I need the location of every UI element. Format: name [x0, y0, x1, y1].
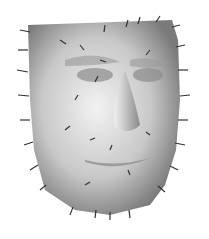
face-mesh-figure	[0, 0, 209, 239]
face-surface	[28, 20, 180, 215]
